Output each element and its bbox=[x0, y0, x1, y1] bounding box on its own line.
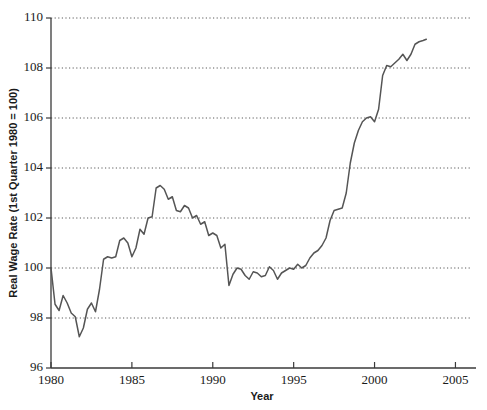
gridlines-group bbox=[51, 18, 470, 318]
y-tick-label-100: 100 bbox=[24, 259, 44, 274]
x-tick-group: 198019851990199520002005 bbox=[38, 362, 468, 387]
y-tick-label-102: 102 bbox=[24, 209, 44, 224]
real-wage-rate-line-chart: 9698100102104106108110 19801985199019952… bbox=[0, 0, 487, 410]
data-series-group bbox=[51, 39, 426, 337]
x-tick-label-1985: 1985 bbox=[119, 372, 145, 387]
chart-figure: 9698100102104106108110 19801985199019952… bbox=[0, 0, 487, 410]
x-tick-label-1980: 1980 bbox=[38, 372, 64, 387]
y-tick-label-110: 110 bbox=[24, 9, 43, 24]
y-tick-label-108: 108 bbox=[24, 59, 44, 74]
x-tick-label-2005: 2005 bbox=[442, 372, 468, 387]
x-axis-title: Year bbox=[250, 390, 274, 402]
x-tick-label-2000: 2000 bbox=[362, 372, 388, 387]
x-tick-label-1990: 1990 bbox=[200, 372, 226, 387]
x-tick-label-1995: 1995 bbox=[281, 372, 307, 387]
y-axis-title: Real Wage Rate (1st Quarter 1980 = 100) bbox=[7, 88, 19, 298]
axes-group bbox=[51, 18, 476, 368]
y-tick-group: 9698100102104106108110 bbox=[24, 9, 52, 374]
y-tick-label-104: 104 bbox=[24, 159, 44, 174]
series-line-real-wage-rate bbox=[51, 39, 426, 337]
y-tick-label-98: 98 bbox=[30, 309, 43, 324]
y-tick-label-106: 106 bbox=[24, 109, 44, 124]
